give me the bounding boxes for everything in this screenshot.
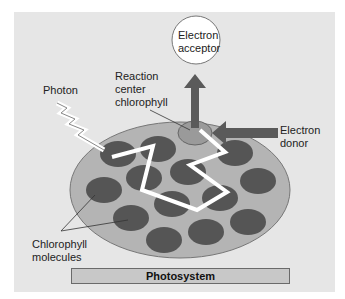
chl-line-1: Chlorophyll — [32, 238, 87, 251]
photosystem-label-box: Photosystem — [71, 268, 290, 284]
photon-label: Photon — [43, 84, 78, 97]
electron-acceptor-label: Electron acceptor — [178, 29, 214, 55]
rc-line-1: Reaction — [115, 70, 168, 83]
donor-line-1: Electron — [280, 124, 320, 137]
photosystem-diagram: Electron acceptor Reaction center chloro… — [0, 0, 345, 299]
acceptor-line-2: acceptor — [178, 42, 214, 55]
reaction-center-label: Reaction center chlorophyll — [115, 70, 168, 109]
chlorophyll-label: Chlorophyll molecules — [32, 238, 87, 264]
rc-line-3: chlorophyll — [115, 96, 168, 109]
donor-line-2: donor — [280, 137, 320, 150]
electron-donor-label: Electron donor — [280, 124, 320, 150]
chl-line-2: molecules — [32, 251, 87, 264]
acceptor-line-1: Electron — [178, 29, 214, 42]
rc-line-2: center — [115, 83, 168, 96]
